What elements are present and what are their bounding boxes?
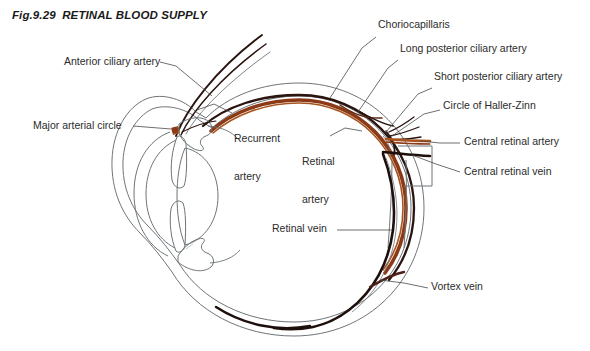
lens-outline	[177, 148, 218, 245]
ciliary-body-outline	[178, 118, 214, 271]
label-retinal-artery: Retinal artery	[302, 130, 335, 230]
label-choriocapillaris: Choriocapillaris	[378, 18, 450, 31]
label-recurrent-artery: Recurrent artery	[234, 107, 280, 207]
lower-retinal-vein-segment	[216, 307, 310, 328]
leader-long-posterior-ciliary-artery	[358, 60, 398, 112]
figure-page: Fig.9.29 RETINAL BLOOD SUPPLY	[0, 0, 590, 351]
label-vortex-vein: Vortex vein	[431, 280, 483, 293]
cornea-outline	[134, 132, 176, 256]
leader-vortex-vein	[380, 280, 428, 288]
leader-retinal-artery	[330, 128, 362, 136]
leader-central-retinal-artery	[420, 141, 460, 143]
label-long-posterior-ciliary-artery: Long posterior ciliary artery	[400, 42, 527, 55]
label-short-posterior-ciliary-artery: Short posterior ciliary artery	[434, 70, 562, 83]
retinal-vein-vessel	[274, 154, 397, 329]
label-central-retinal-vein: Central retinal vein	[464, 165, 552, 178]
label-major-arterial-circle: Major arterial circle	[33, 119, 122, 132]
iris-outline	[170, 136, 186, 252]
label-recurrent-artery-line1: Recurrent	[234, 132, 280, 145]
label-retinal-artery-line1: Retinal	[302, 155, 335, 168]
label-circle-of-haller-zinn: Circle of Haller-Zinn	[443, 99, 536, 112]
leader-central-retinal-vein	[412, 155, 460, 172]
label-anterior-ciliary-artery: Anterior ciliary artery	[64, 55, 160, 68]
label-retinal-vein: Retinal vein	[272, 222, 327, 235]
leader-major-arterial-circle	[133, 126, 171, 129]
label-recurrent-artery-line2: artery	[234, 170, 280, 183]
short-posterior-ciliary-arteries	[389, 117, 421, 140]
label-retinal-artery-line2: artery	[302, 193, 335, 206]
label-central-retinal-artery: Central retinal artery	[464, 135, 559, 148]
